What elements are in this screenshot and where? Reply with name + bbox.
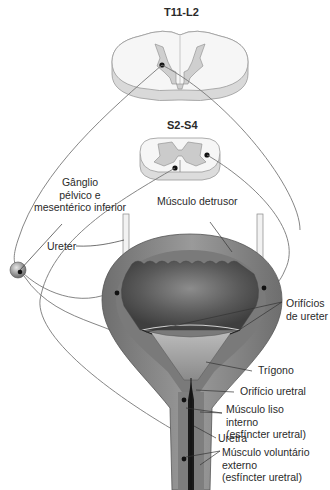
segment-label-t11-l2: T11-L2 <box>164 6 199 19</box>
nerve-ending-right-wall <box>262 286 267 291</box>
ureter-label: Ureter <box>47 240 76 253</box>
nerve-ending-internal-sphincter <box>182 398 187 403</box>
trigone-label: Trígono <box>258 364 294 377</box>
spinal-cord-section-t11-l2 <box>112 31 248 100</box>
detrusor-muscle-label: Músculo detrusor <box>157 195 238 208</box>
ganglion-label: Gânglio pélvico e mesentérico inferior <box>22 176 138 214</box>
ureter-orifices-label: Orifícios de ureter <box>286 297 328 322</box>
nerve-ending-left-wall <box>115 291 120 296</box>
segment-label-s2-s4: S2-S4 <box>167 119 198 132</box>
urethra-label: Uretra <box>218 432 247 445</box>
external-sphincter-label: Músculo voluntário externo (esfíncter ur… <box>222 446 310 484</box>
pelvic-ganglion <box>10 262 26 278</box>
spinal-cord-section-s2-s4 <box>140 138 220 180</box>
urethral-orifice-label: Orifício uretral <box>240 385 306 398</box>
nerve-ending-external-sphincter <box>182 457 187 462</box>
